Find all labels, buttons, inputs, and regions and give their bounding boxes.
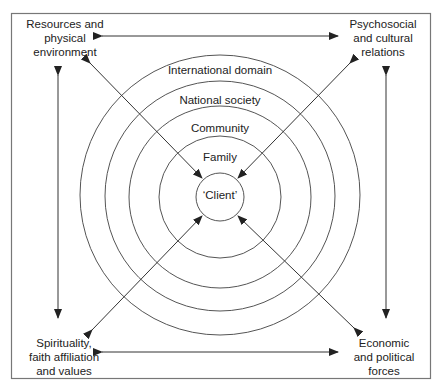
label-line: forces	[344, 364, 424, 378]
label-line: Economic	[344, 336, 424, 350]
label-line: Resources and	[17, 17, 113, 31]
ring-label-national: National society	[120, 94, 320, 106]
label-line: relations	[340, 45, 426, 59]
label-line: and values	[14, 364, 114, 378]
label-line: physical	[17, 31, 113, 45]
ring-label-international: International domain	[120, 64, 320, 76]
ring-label-client: ‘Client’	[120, 189, 320, 201]
label-economic: Economic and political forces	[344, 336, 424, 378]
label-psychosocial: Psychosocial and cultural relations	[340, 17, 426, 59]
label-line: faith affiliation	[14, 350, 114, 364]
arrow-diag-bl	[92, 216, 202, 330]
label-line: and cultural	[340, 31, 426, 45]
label-line: Psychosocial	[340, 17, 426, 31]
ring-label-community: Community	[120, 122, 320, 134]
label-line: environment	[17, 45, 113, 59]
label-resources: Resources and physical environment	[17, 17, 113, 59]
ring-label-family: Family	[120, 151, 320, 163]
label-spirituality: Spirituality, faith affiliation and valu…	[14, 336, 114, 378]
label-line: Spirituality,	[14, 336, 114, 350]
label-line: and political	[344, 350, 424, 364]
